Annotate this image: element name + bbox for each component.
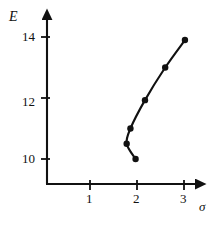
data-point [182, 37, 188, 43]
chart-figure: E σ 14 12 10 1 2 3 [0, 0, 220, 229]
data-series-line [126, 40, 184, 159]
y-tick-label-10: 10 [22, 152, 35, 165]
y-tick-label-14: 14 [22, 30, 35, 43]
data-series-markers [123, 37, 188, 162]
data-point [123, 141, 129, 147]
y-tick-label-12: 12 [22, 95, 35, 108]
x-tick-label-3: 3 [180, 192, 187, 205]
data-point [142, 97, 148, 103]
x-axis-title: σ [199, 200, 205, 213]
data-point [162, 64, 168, 70]
x-tick-label-1: 1 [86, 192, 93, 205]
x-tick-label-2: 2 [133, 192, 140, 205]
data-point [132, 156, 138, 162]
y-axis-title: E [9, 10, 18, 24]
data-point [127, 125, 133, 131]
